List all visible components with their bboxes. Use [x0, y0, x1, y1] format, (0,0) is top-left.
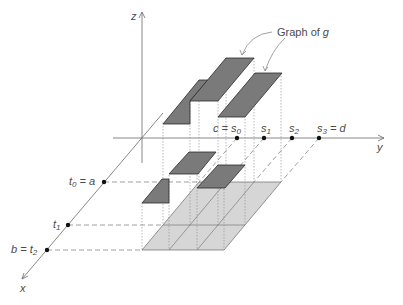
label-t0: t0 = a [69, 175, 95, 189]
step-top-r11 [163, 80, 208, 124]
x-axis-label: x [19, 282, 26, 294]
label-s3: s3 = d [317, 122, 346, 136]
z-axis-label: z [130, 10, 137, 22]
step-function-diagram: Graph of g z y x c = s0 s1 s2 s3 = d t0 … [0, 0, 403, 305]
step-top-r21 [142, 179, 169, 203]
point-s0 [235, 136, 239, 140]
y-axis-label: y [376, 141, 384, 153]
callout-arrow-2 [265, 38, 285, 71]
label-s1: s1 [261, 122, 271, 136]
point-s3 [317, 136, 321, 140]
diagram-canvas: Graph of g z y x c = s0 s1 s2 s3 = d t0 … [0, 0, 403, 305]
point-s2 [290, 136, 294, 140]
point-t0 [102, 180, 106, 184]
label-s2: s2 [289, 122, 300, 136]
point-s1 [262, 136, 266, 140]
callout-arrow-1 [242, 32, 272, 55]
x-axis [22, 113, 163, 279]
label-t2: b = t2 [11, 243, 38, 257]
graph-label: Graph of g [277, 26, 330, 38]
label-s0: c = s0 [213, 122, 242, 136]
point-t2 [45, 248, 49, 252]
label-t1: t1 [53, 218, 61, 232]
point-t1 [66, 223, 70, 227]
